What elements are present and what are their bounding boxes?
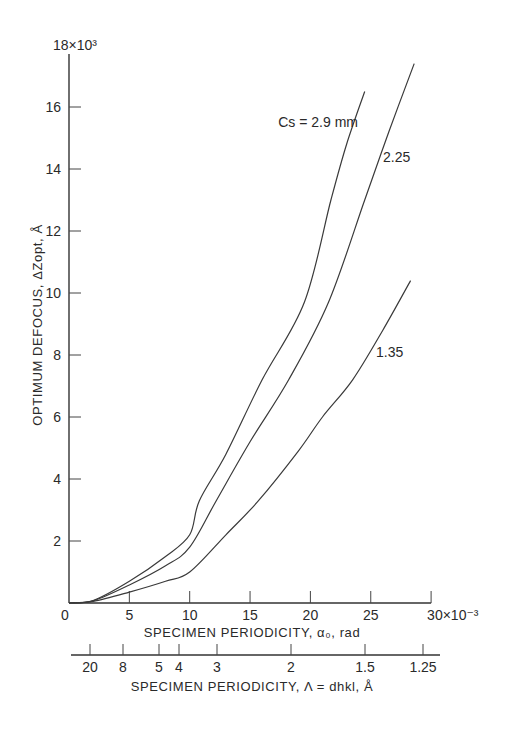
x2-tick-label: 1.5 [355,659,375,675]
y-tick-label: 14 [45,161,61,177]
y-tick-label: 8 [53,347,61,363]
x-tick-label: 0 [61,607,69,623]
x-tick-label: 25 [363,607,379,623]
x2-tick-label: 20 [82,659,98,675]
curves [69,64,414,603]
y-tick-label: 10 [45,285,61,301]
y-axis-title: OPTIMUM DEFOCUS, ΔZopt, Å [30,224,45,425]
x2-tick-label: 5 [155,659,163,675]
x-tick-label: 10 [182,607,198,623]
x-tick-label: 20 [303,607,319,623]
y-tick-label: 16 [45,99,61,115]
curve-label-2.25: 2.25 [383,149,410,165]
x2-axis-title: SPECIMEN PERIODICITY, Λ = dhkl, Å [131,679,373,694]
curve-label-2.9: Cs = 2.9 mm [278,114,358,130]
y-tick-label: 4 [53,471,61,487]
labels: OPTIMUM DEFOCUS, ΔZopt, Å SPECIMEN PERIO… [30,114,410,694]
y-tick-label: 12 [45,223,61,239]
x2-tick-label: 1.25 [409,659,436,675]
defocus-chart: 24681012141618×10³051015202530×10⁻³20854… [0,0,508,734]
x-tick-label: 15 [242,607,258,623]
curve-1.35 [69,281,411,603]
x-axis-title: SPECIMEN PERIODICITY, α₀, rad [144,625,360,640]
y-tick-label: 6 [53,409,61,425]
x2-tick-label: 2 [287,659,295,675]
axes: 24681012141618×10³051015202530×10⁻³20854… [45,37,478,675]
x2-tick-label: 4 [175,659,183,675]
curve-label-1.35: 1.35 [376,344,403,360]
curve-2.9 [69,92,365,604]
x-tick-label: 30×10⁻³ [427,607,479,623]
y-tick-label: 2 [53,533,61,549]
x-tick-label: 5 [125,607,133,623]
x2-tick-label: 3 [213,659,221,675]
x2-tick-label: 8 [119,659,127,675]
curve-2.25 [69,64,414,603]
y-tick-label: 18×10³ [53,37,97,53]
